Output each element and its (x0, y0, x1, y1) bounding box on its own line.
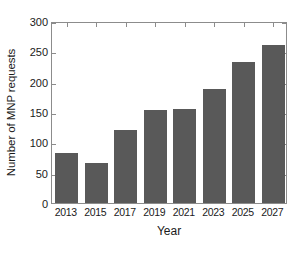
x-tick-label: 2019 (143, 206, 165, 218)
x-axis-tick-labels: 20132015201720192021202320252027 (51, 206, 287, 222)
x-tick-label: 2023 (202, 206, 224, 218)
plot-inner (52, 23, 286, 203)
x-tick-label: 2017 (114, 206, 136, 218)
bar (55, 153, 78, 203)
bar (232, 62, 255, 203)
bar (114, 130, 137, 203)
x-tick-label: 2015 (84, 206, 106, 218)
y-axis-tick-labels: 050100150200250300 (18, 0, 48, 253)
x-axis-title: Year (51, 224, 287, 238)
bar (262, 45, 285, 203)
y-tick-label: 50 (18, 168, 48, 179)
y-axis-title: Number of MNP requests (4, 22, 18, 203)
x-tick-label: 2013 (55, 206, 77, 218)
y-tick-label: 0 (18, 199, 48, 210)
y-tick-label: 250 (18, 47, 48, 58)
x-tick-label: 2021 (173, 206, 195, 218)
bar (85, 163, 108, 203)
y-tick-label: 100 (18, 138, 48, 149)
y-tick-label: 300 (18, 17, 48, 28)
bar (173, 109, 196, 203)
bar (203, 89, 226, 203)
x-tick-label: 2025 (232, 206, 254, 218)
plot-area (51, 22, 287, 204)
bar (144, 110, 167, 203)
x-tick-label: 2027 (261, 206, 283, 218)
bars-layer (52, 23, 286, 203)
y-tick-label: 200 (18, 77, 48, 88)
y-tick-label: 150 (18, 108, 48, 119)
bar-chart-figure: Number of MNP requests 05010015020025030… (0, 0, 300, 253)
